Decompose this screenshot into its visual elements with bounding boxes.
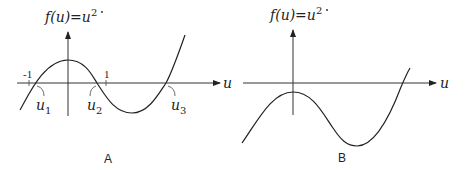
tick-label-minus-one: -1: [23, 68, 32, 80]
tick-label-one: 1: [104, 68, 110, 80]
panel-b-caption: B: [338, 151, 346, 165]
root-pointer-u3: [168, 86, 175, 96]
root-label-u1: u1: [36, 97, 51, 116]
panel-b: f(u)=u2 u B: [242, 5, 449, 165]
panel-a-title: f(u)=u2: [44, 7, 97, 25]
root-label-u3: u3: [171, 97, 186, 116]
derivative-dot-icon: [326, 9, 328, 11]
root-pointer-u2: [90, 86, 96, 96]
panel-a-x-label: u: [223, 75, 232, 91]
panel-b-title: f(u)=u2: [269, 5, 322, 23]
derivative-dot-icon: [101, 11, 103, 13]
diagram-canvas: f(u)=u2 u -1 1 u1 u2 u3 A: [0, 0, 467, 170]
panel-b-curve: [242, 68, 410, 146]
root-pointer-u1: [37, 86, 44, 96]
panel-a-caption: A: [104, 152, 112, 166]
panel-a: f(u)=u2 u -1 1 u1 u2 u3 A: [17, 7, 232, 166]
panel-b-x-label: u: [440, 75, 449, 91]
root-label-u2: u2: [87, 97, 102, 116]
